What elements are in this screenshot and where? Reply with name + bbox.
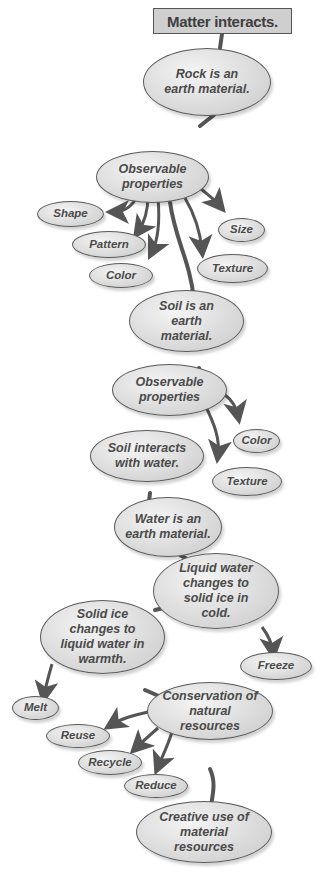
node-reduce: Reduce [124, 774, 188, 798]
node-creative-use: Creative use of material resources [136, 801, 272, 863]
node-recycle: Recycle [78, 750, 142, 775]
node-color-1: Color [89, 263, 153, 288]
node-reuse: Reuse [46, 724, 110, 748]
title-box: Matter interacts. [153, 8, 292, 34]
node-size: Size [218, 218, 265, 242]
node-freeze: Freeze [240, 652, 312, 680]
node-soil-interacts-with-water: Soil interacts with water. [90, 430, 204, 482]
node-solid-ice: Solid ice changes to liquid water in war… [40, 600, 165, 674]
node-soil: Soil is an earth material. [129, 290, 244, 352]
node-observable-properties-2: Observable properties [112, 364, 227, 416]
node-pattern: Pattern [72, 231, 146, 258]
node-liquid-water: Liquid water changes to solid ice in col… [153, 553, 279, 629]
node-texture-1: Texture [197, 254, 268, 283]
node-conservation: Conservation of natural resources [147, 682, 273, 740]
node-rock: Rock is an earth material. [143, 48, 271, 116]
node-melt: Melt [12, 696, 59, 720]
node-texture-2: Texture [212, 467, 282, 496]
node-water: Water is an earth material. [114, 497, 222, 557]
node-color-2: Color [233, 429, 280, 453]
node-shape: Shape [37, 201, 104, 227]
node-observable-properties-1: Observable properties [96, 151, 209, 203]
